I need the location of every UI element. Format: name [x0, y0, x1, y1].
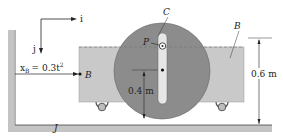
pin-label: P — [142, 37, 150, 47]
point-b-dot — [78, 72, 81, 75]
dim-arrow-down-icon — [143, 114, 146, 119]
j-label: j — [32, 44, 36, 54]
xb-arrow-icon — [73, 72, 79, 76]
wall — [8, 30, 14, 131]
cart-label: B — [233, 21, 241, 31]
wheel-left — [96, 102, 108, 111]
eq-superscript: 2 — [60, 61, 64, 68]
j-arrow-icon — [39, 48, 43, 54]
radius-dim-label: 0.4 m — [128, 86, 154, 96]
eq-rhs: = 0.3t — [32, 63, 61, 73]
disk-center-dot — [161, 68, 164, 71]
wheel-right — [216, 102, 228, 111]
ground — [8, 125, 272, 132]
i-arrow-icon — [71, 17, 77, 21]
coordinate-axes: i j — [32, 14, 83, 54]
diagram-svg: i j C B P 0.4 m 0.6 — [0, 0, 283, 136]
cart-disk-diagram: i j C B P 0.4 m 0.6 — [0, 0, 283, 136]
i-label: i — [80, 14, 83, 24]
point-b-label: B — [84, 70, 92, 80]
height-dim-label: 0.6 m — [251, 69, 277, 79]
dim-arrow-up-icon — [258, 39, 261, 44]
height-dimension: 0.6 m — [248, 38, 277, 124]
svg-text:xB= 0.3t2: xB= 0.3t2 — [20, 61, 64, 74]
pin-p-center — [162, 45, 164, 47]
disk-label: C — [163, 7, 170, 17]
eq-subscript: B — [25, 67, 30, 74]
dim-arrow-down-icon — [258, 119, 261, 124]
